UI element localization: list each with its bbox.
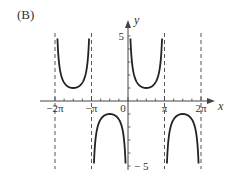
csc-branch-1 — [57, 38, 89, 88]
csc-chart: −2π−π0π2π5− 5xy — [0, 0, 236, 175]
x-tick-label: −2π — [46, 102, 64, 114]
csc-branch-4 — [167, 114, 199, 164]
x-axis-arrow-icon — [207, 98, 215, 104]
csc-branch-3 — [130, 38, 162, 88]
y-axis-label: y — [133, 13, 140, 27]
x-axis-label: x — [217, 99, 224, 113]
x-tick-label: 2π — [195, 102, 207, 114]
x-tick-label: π — [162, 102, 168, 114]
y-axis-arrow-icon — [125, 20, 131, 28]
x-tick-label: 0 — [120, 102, 126, 114]
y-tick-label: 5 — [119, 30, 125, 42]
x-tick-label: −π — [86, 102, 98, 114]
csc-branch-2 — [94, 114, 126, 164]
y-tick-label: − 5 — [134, 160, 149, 172]
